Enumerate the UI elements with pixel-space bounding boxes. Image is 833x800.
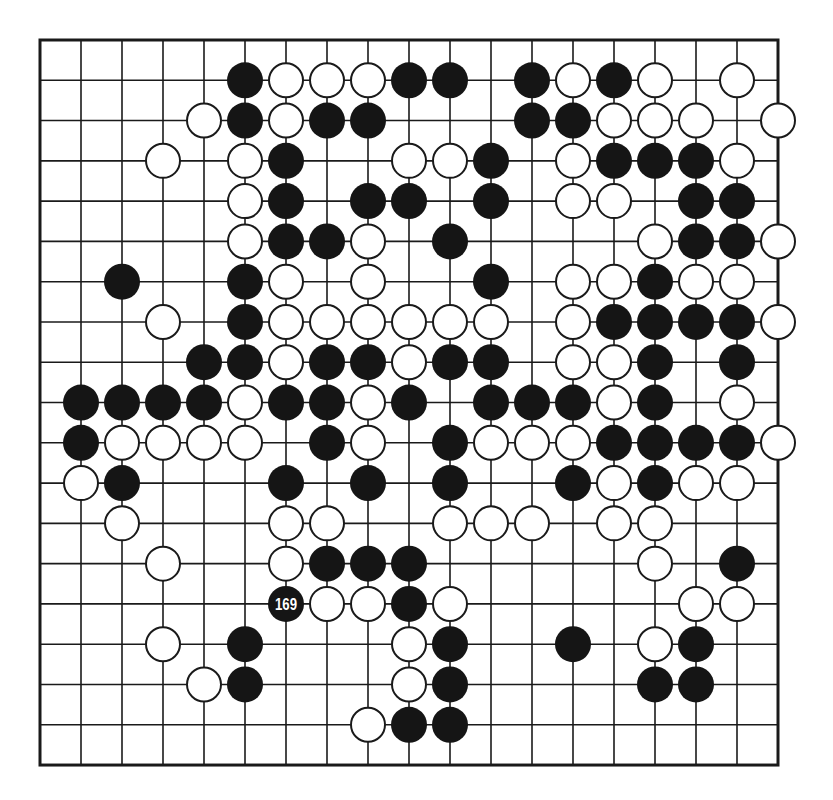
black-stone (719, 546, 755, 582)
white-stone (392, 627, 426, 661)
black-stone (309, 223, 345, 259)
white-stone (269, 265, 303, 299)
black-stone (637, 425, 673, 461)
black-stone (391, 707, 427, 743)
black-stone (227, 304, 263, 340)
white-stone (597, 466, 631, 500)
white-stone (433, 144, 467, 178)
white-stone (761, 224, 795, 258)
black-stone (309, 385, 345, 421)
black-stone (678, 223, 714, 259)
white-stone (392, 345, 426, 379)
white-stone (556, 305, 590, 339)
white-stone (474, 305, 508, 339)
black-stone (350, 103, 386, 139)
black-stone (637, 385, 673, 421)
black-stone (227, 626, 263, 662)
white-stone (515, 426, 549, 460)
black-stone (309, 344, 345, 380)
white-stone (638, 547, 672, 581)
white-stone (720, 466, 754, 500)
white-stone (228, 184, 262, 218)
black-stone (227, 344, 263, 380)
white-stone (228, 426, 262, 460)
black-stone (350, 546, 386, 582)
white-stone (638, 104, 672, 138)
black-stone (432, 666, 468, 702)
white-stone (679, 466, 713, 500)
white-stone (761, 305, 795, 339)
go-board-svg[interactable]: 169 (0, 0, 833, 800)
white-stone (720, 63, 754, 97)
black-stone (432, 344, 468, 380)
black-stone (596, 425, 632, 461)
black-stone (268, 465, 304, 501)
white-stone (597, 184, 631, 218)
white-stone (351, 63, 385, 97)
black-stone (268, 385, 304, 421)
white-stone (761, 426, 795, 460)
black-stone (596, 62, 632, 98)
white-stone (433, 506, 467, 540)
black-stone (555, 385, 591, 421)
white-stone (433, 305, 467, 339)
white-stone (187, 667, 221, 701)
black-stone (637, 465, 673, 501)
black-stone (268, 183, 304, 219)
black-stone (432, 223, 468, 259)
black-stone (104, 465, 140, 501)
black-stone (391, 385, 427, 421)
black-stone (719, 223, 755, 259)
black-stone (227, 264, 263, 300)
black-stone (350, 465, 386, 501)
white-stone (597, 386, 631, 420)
black-stone (678, 143, 714, 179)
black-stone (719, 183, 755, 219)
white-stone (761, 104, 795, 138)
black-stone (227, 62, 263, 98)
white-stone (146, 426, 180, 460)
black-stone (637, 304, 673, 340)
black-stone (227, 666, 263, 702)
white-stone (638, 224, 672, 258)
white-stone (638, 627, 672, 661)
black-stone (473, 143, 509, 179)
white-stone (392, 667, 426, 701)
white-stone (392, 305, 426, 339)
white-stone (269, 345, 303, 379)
white-stone (187, 104, 221, 138)
white-stone (679, 104, 713, 138)
black-stone (432, 465, 468, 501)
white-stone (105, 426, 139, 460)
white-stone (187, 426, 221, 460)
white-stone (228, 144, 262, 178)
black-stone (350, 344, 386, 380)
white-stone (228, 224, 262, 258)
black-stone (309, 546, 345, 582)
black-stone (678, 666, 714, 702)
black-stone (555, 465, 591, 501)
white-stone (269, 506, 303, 540)
black-stone (637, 264, 673, 300)
white-stone (597, 265, 631, 299)
black-stone (432, 626, 468, 662)
black-stone (473, 385, 509, 421)
move-number-label: 169 (275, 595, 297, 614)
white-stone (720, 386, 754, 420)
white-stone (474, 426, 508, 460)
go-board[interactable]: 169 (0, 0, 833, 800)
black-stone (63, 425, 99, 461)
white-stone (64, 466, 98, 500)
black-stone (391, 62, 427, 98)
white-stone (310, 63, 344, 97)
move-labels: 169 (275, 595, 297, 614)
black-stone (391, 586, 427, 622)
black-stone (432, 707, 468, 743)
black-stone (637, 666, 673, 702)
black-stone (514, 385, 550, 421)
black-stone (104, 385, 140, 421)
black-stone (432, 425, 468, 461)
white-stone (269, 305, 303, 339)
white-stone (269, 104, 303, 138)
white-stone (720, 587, 754, 621)
